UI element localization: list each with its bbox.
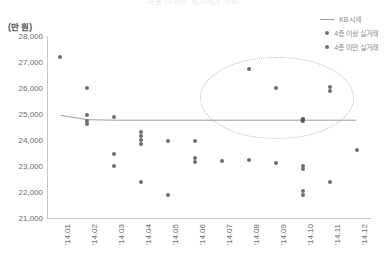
x-axis-tick: '14.10 <box>306 224 315 246</box>
y-axis-tick: 26,000 <box>19 84 43 93</box>
scatter-point-on-line <box>300 118 305 123</box>
legend-item: 4층 이상 실거래 <box>320 28 378 38</box>
x-axis-tick: '14.11 <box>333 224 342 245</box>
x-axis-tick: '14.03 <box>117 224 126 246</box>
x-axis-tick: '14.02 <box>90 224 99 246</box>
scatter-point <box>193 160 197 164</box>
y-axis-tick-labels: 28,00027,00026,00025,00024,00023,00022,0… <box>0 0 43 263</box>
y-axis-tick: 21,000 <box>19 214 43 223</box>
x-axis-tick: '14.06 <box>198 224 207 246</box>
legend-item: KB시세 <box>320 14 360 24</box>
highlight-ellipse-annotation <box>200 57 354 140</box>
scatter-point <box>355 148 359 152</box>
x-axis-tick: '14.04 <box>144 224 153 246</box>
legend-dot-swatch <box>325 31 329 35</box>
x-axis-line <box>47 218 371 219</box>
chart-title: 서울 아파트 실거래가 추이 <box>0 0 386 5</box>
y-axis-tick: 28,000 <box>19 32 43 41</box>
scatter-point <box>112 115 116 119</box>
scatter-point <box>274 161 278 165</box>
scatter-point <box>112 152 116 156</box>
x-axis-tick: '14.05 <box>171 224 180 246</box>
chart-legend: KB시세4층 이상 실거래4층 미만 실거래 <box>320 14 378 52</box>
scatter-point <box>139 142 143 146</box>
y-axis-tick: 22,000 <box>19 188 43 197</box>
y-axis-line <box>47 36 48 219</box>
legend-item-label: KB시세 <box>339 14 360 24</box>
y-axis-tick: 24,000 <box>19 136 43 145</box>
scatter-point <box>301 167 305 171</box>
scatter-point <box>166 139 170 143</box>
scatter-point <box>247 67 251 71</box>
y-axis-tick: 23,000 <box>19 162 43 171</box>
scatter-point <box>85 86 89 90</box>
scatter-point <box>274 86 278 90</box>
x-axis-tick: '14.07 <box>225 224 234 246</box>
scatter-point <box>58 55 62 59</box>
legend-item-label: 4층 미만 실거래 <box>334 42 378 52</box>
scatter-point <box>301 193 305 197</box>
scatter-point <box>112 164 116 168</box>
legend-dot-swatch <box>325 45 329 49</box>
scatter-point <box>85 113 89 117</box>
y-axis-tick: 27,000 <box>19 58 43 67</box>
y-axis-tick: 25,000 <box>19 110 43 119</box>
legend-item: 4층 미만 실거래 <box>320 42 378 52</box>
x-axis-tick: '14.12 <box>360 224 369 246</box>
scatter-point <box>166 193 170 197</box>
x-axis-tick: '14.08 <box>252 224 261 246</box>
scatter-point <box>220 159 224 163</box>
legend-item-label: 4층 이상 실거래 <box>334 28 378 38</box>
scatter-point <box>328 180 332 184</box>
chart-container: 서울 아파트 실거래가 추이 (만 원) 28,00027,00026,0002… <box>0 0 386 263</box>
scatter-point <box>139 180 143 184</box>
x-axis-tick: '14.01 <box>63 224 72 246</box>
x-axis-tick: '14.09 <box>279 224 288 246</box>
scatter-point <box>85 122 89 126</box>
scatter-point <box>193 139 197 143</box>
scatter-point <box>328 89 332 93</box>
legend-line-swatch <box>320 19 334 20</box>
scatter-point <box>247 158 251 162</box>
